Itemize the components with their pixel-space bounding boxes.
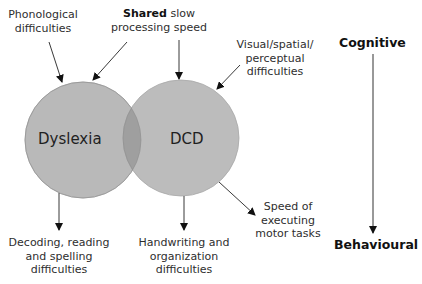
cognitive-label: Cognitive bbox=[339, 35, 406, 50]
handwriting-label: Handwriting and organization difficultie… bbox=[134, 236, 234, 277]
phonological-label: Phonological difficulties bbox=[7, 8, 79, 35]
phonological-arrow bbox=[49, 42, 62, 82]
decoding-label: Decoding, reading and spelling difficult… bbox=[4, 236, 114, 277]
dcd-label: DCD bbox=[170, 130, 204, 148]
shared-label: Shared slow processing speed bbox=[106, 7, 212, 34]
behavioural-label: Behavioural bbox=[334, 237, 418, 252]
speed-label: Speed of executing motor tasks bbox=[250, 200, 326, 241]
shared-arrow-dyslexia bbox=[93, 42, 127, 80]
visual-label: Visual/spatial/ perceptual difficulties bbox=[230, 38, 320, 79]
diagram-canvas: Dyslexia DCD Phonological difficulties S… bbox=[0, 0, 422, 284]
shared-bold: Shared bbox=[123, 7, 167, 20]
dyslexia-label: Dyslexia bbox=[38, 130, 102, 148]
